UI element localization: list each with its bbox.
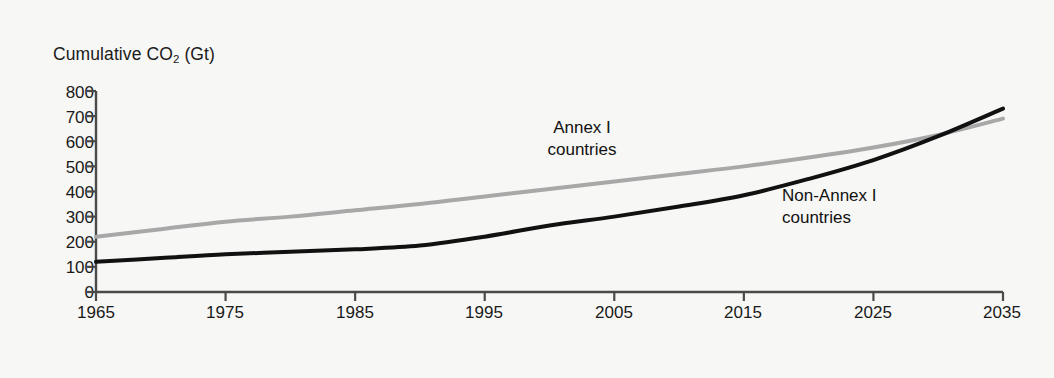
axis-lines — [96, 91, 1003, 292]
series-line-non-annex-i — [96, 109, 1003, 262]
series-paths — [96, 109, 1003, 262]
x-axis-ticks — [96, 292, 1003, 301]
chart-figure: Cumulative CO2 (Gt) 800 700 600 500 400 … — [0, 0, 1054, 378]
series-line-annex-i — [96, 119, 1003, 237]
plot-area — [0, 0, 1054, 378]
